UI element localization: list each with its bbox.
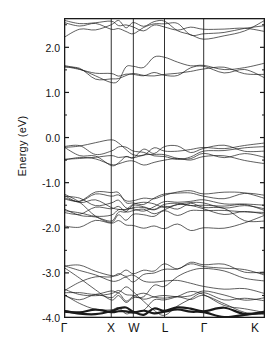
x-tick-label-k: K xyxy=(245,322,265,334)
y-tick-label: 2.0 xyxy=(30,43,60,54)
plot-area xyxy=(64,18,265,318)
y-tick-label: -2.0 xyxy=(30,223,60,234)
y-axis-tick-labels: 2.0 1.0 0.0 -1.0 -2.0 -3.0 -4.0 xyxy=(28,0,60,349)
band-curves xyxy=(64,18,265,318)
x-tick-label-l: L xyxy=(155,322,175,334)
y-tick-label: -1.0 xyxy=(30,178,60,189)
y-tick-label: 1.0 xyxy=(30,88,60,99)
y-axis-title: Energy (eV) xyxy=(16,76,28,216)
x-tick-label-gamma2: Γ xyxy=(194,322,214,334)
x-axis-tick-labels: Γ X W L Γ K xyxy=(0,322,269,342)
x-tick-label-x: X xyxy=(101,322,121,334)
band-structure-figure: Energy (eV) 2.0 1.0 0.0 -1.0 -2.0 -3.0 -… xyxy=(0,0,269,349)
x-tick-label-gamma1: Γ xyxy=(54,322,74,334)
y-tick-label: 0.0 xyxy=(30,133,60,144)
x-tick-label-w: W xyxy=(124,322,144,334)
y-tick-label: -3.0 xyxy=(30,268,60,279)
